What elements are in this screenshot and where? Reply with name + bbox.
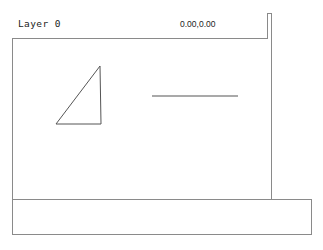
command-prompt-bar[interactable] — [12, 199, 312, 235]
canvas-vector-layer — [13, 39, 268, 199]
status-header-bar: Layer 0 0.00,0.00 — [12, 13, 268, 39]
coordinate-readout: 0.00,0.00 — [180, 19, 215, 29]
application-window: Layer 0 0.00,0.00 — [0, 0, 323, 250]
drawing-canvas[interactable] — [13, 39, 268, 199]
side-tool-panel[interactable] — [271, 13, 312, 200]
current-layer-label[interactable]: Layer 0 — [18, 18, 61, 29]
side-panel-content — [272, 13, 312, 199]
shape-right-triangle[interactable] — [56, 66, 101, 124]
